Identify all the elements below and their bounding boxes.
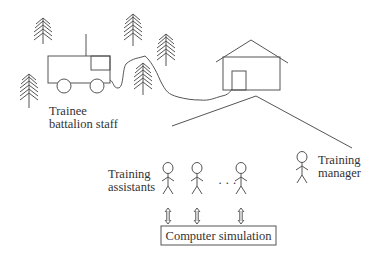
manager-label-line1: Training bbox=[318, 153, 361, 167]
cable-line bbox=[110, 56, 232, 100]
manager-label-line2: manager bbox=[318, 166, 362, 180]
vehicle-icon bbox=[48, 34, 110, 93]
tree-icon bbox=[20, 74, 38, 108]
computer-simulation-label: Computer simulation bbox=[166, 229, 273, 243]
bidirectional-arrow-icon bbox=[238, 208, 244, 224]
assistant-figure-icon bbox=[191, 163, 203, 195]
assistant-figure-icon bbox=[235, 163, 247, 195]
ellipsis-text: · · · bbox=[218, 176, 237, 190]
diagram-canvas: Trainee battalion staff Training assista… bbox=[0, 0, 377, 253]
house-icon bbox=[216, 40, 288, 90]
assistant-figure-icon bbox=[162, 163, 174, 195]
tree-icon bbox=[134, 63, 152, 95]
manager-figure-icon bbox=[296, 152, 308, 184]
bidirectional-arrow-icon bbox=[194, 208, 200, 224]
tree-icon bbox=[124, 14, 142, 46]
bidirectional-arrow-icon bbox=[165, 208, 171, 224]
trainee-label-line2: battalion staff bbox=[49, 117, 119, 131]
assistants-label-line2: assistants bbox=[108, 180, 155, 194]
tree-icon bbox=[157, 34, 175, 66]
trainee-label-line1: Trainee bbox=[49, 104, 87, 118]
hierarchy-lines bbox=[172, 96, 352, 148]
assistants-label-line1: Training bbox=[108, 167, 151, 181]
tree-icon bbox=[34, 18, 52, 44]
